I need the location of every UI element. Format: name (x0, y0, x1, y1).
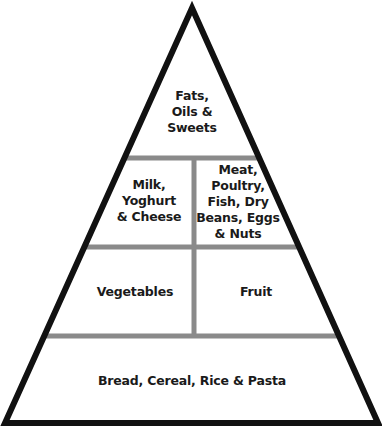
tier-meat-poultry-fish-beans-eggs-nuts: Meat, Poultry, Fish, Dry Beans, Eggs & N… (196, 162, 280, 242)
tier-fruit: Fruit (206, 284, 306, 300)
tier-milk-yoghurt-cheese: Milk, Yoghurt & Cheese (104, 177, 194, 225)
tier-vegetables: Vegetables (80, 284, 190, 300)
tier-bread-cereal-rice-pasta: Bread, Cereal, Rice & Pasta (60, 373, 324, 389)
tier-fats-oils-sweets: Fats, Oils & Sweets (142, 88, 242, 136)
